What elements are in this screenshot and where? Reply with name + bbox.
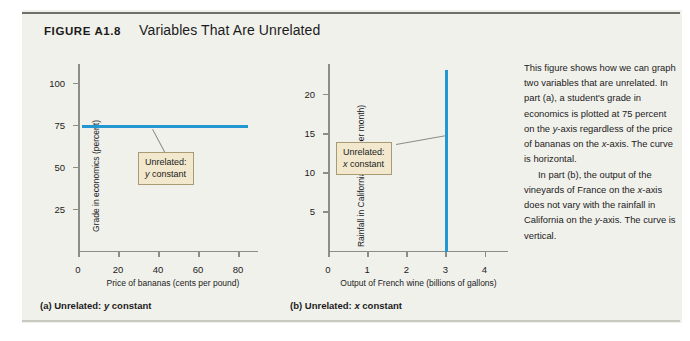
chart-a-xtick-label-40: 40 <box>153 264 164 275</box>
figure-header: FIGURE A1.8 Variables That Are Unrelated <box>44 22 320 38</box>
chart-b-ytick-10: 10 <box>323 172 328 174</box>
explanation-p2-a: In part (b), the output of the vineyards… <box>524 169 652 195</box>
chart-a-x-axis <box>78 251 258 253</box>
chart-b-ytick-label-15: 15 <box>304 128 315 139</box>
chart-a-annotation-line2: y constant <box>145 168 187 180</box>
chart-b-xtick-3: 3 <box>445 252 447 257</box>
chart-b-ytick-20: 20 <box>323 94 328 96</box>
chart-b-ytick-5: 5 <box>323 211 328 213</box>
panel-caption-a-suffix: constant <box>109 300 151 311</box>
chart-b-ytick-label-20: 20 <box>304 88 315 99</box>
chart-a-ytick-50: 50 <box>73 167 78 169</box>
chart-a-callout-leader <box>152 129 165 152</box>
chart-b-annotation-rest: constant <box>348 159 385 169</box>
chart-b-xtick-0: 0 <box>328 252 330 257</box>
chart-b-xtick-label-0: 0 <box>325 264 330 275</box>
chart-b-xtick-label-2: 2 <box>404 264 409 275</box>
chart-a-curve-horizontal <box>82 125 248 128</box>
chart-a-xtick-0: 0 <box>78 252 80 257</box>
chart-a-ytick-75: 75 <box>73 125 78 127</box>
chart-a-annotation-rest: constant <box>150 169 187 179</box>
panel-caption-a: (a) Unrelated: y constant <box>40 300 151 311</box>
chart-a-xtick-40: 40 <box>158 252 160 257</box>
chart-b-y-axis <box>328 64 330 252</box>
chart-b-curve-vertical <box>445 70 448 252</box>
chart-a-ytick-label-100: 100 <box>49 77 65 88</box>
chart-b-callout-leader <box>396 135 445 145</box>
chart-a-xtick-80: 80 <box>238 252 240 257</box>
explanation-paragraph-2: In part (b), the output of the vineyards… <box>524 167 676 243</box>
explanation-paragraph-1: This figure shows how we can graph two v… <box>524 60 676 167</box>
chart-b-xtick-label-3: 3 <box>443 264 448 275</box>
chart-a-plot-area: 100 75 50 25 0 20 40 60 80 <box>78 64 258 252</box>
chart-a-xtick-label-0: 0 <box>75 264 80 275</box>
chart-a-xtick-label-80: 80 <box>233 264 244 275</box>
panel-caption-a-prefix: (a) Unrelated: <box>40 300 104 311</box>
panel-top-rule <box>22 12 680 14</box>
figure-title: Variables That Are Unrelated <box>139 22 320 38</box>
panel-caption-b: (b) Unrelated: x constant <box>290 300 402 311</box>
chart-b-x-axis <box>328 251 508 253</box>
chart-b-annotation-line2: x constant <box>343 158 385 170</box>
chart-a-xtick-20: 20 <box>118 252 120 257</box>
chart-unrelated-x-constant: Rainfall in California (days per month) … <box>288 56 518 296</box>
figure-explanation-text: This figure shows how we can graph two v… <box>524 60 676 243</box>
chart-a-ytick-label-50: 50 <box>54 161 65 172</box>
chart-a-xtick-label-20: 20 <box>113 264 124 275</box>
figure-number: FIGURE A1.8 <box>44 25 121 37</box>
chart-a-annotation-line1: Unrelated: <box>145 156 187 168</box>
chart-unrelated-y-constant: Grade in economics (percent) Price of ba… <box>38 56 268 296</box>
chart-a-ytick-25: 25 <box>73 209 78 211</box>
chart-b-ytick-label-5: 5 <box>310 206 315 217</box>
chart-a-ytick-label-25: 25 <box>54 203 65 214</box>
chart-a-xtick-60: 60 <box>198 252 200 257</box>
chart-b-xtick-1: 1 <box>367 252 369 257</box>
chart-b-x-axis-title: Output of French wine (billions of gallo… <box>316 278 521 288</box>
chart-b-xtick-2: 2 <box>406 252 408 257</box>
chart-b-ytick-15: 15 <box>323 133 328 135</box>
chart-a-xtick-label-60: 60 <box>193 264 204 275</box>
chart-b-ytick-label-10: 10 <box>304 167 315 178</box>
chart-b-xtick-4: 4 <box>485 252 487 257</box>
panel-caption-b-suffix: constant <box>360 300 402 311</box>
chart-b-annotation-callout: Unrelated: x constant <box>336 142 392 175</box>
chart-b-xtick-label-1: 1 <box>364 264 369 275</box>
chart-b-xtick-label-4: 4 <box>482 264 487 275</box>
chart-a-x-axis-title: Price of bananas (cents per pound) <box>78 278 268 288</box>
chart-b-plot-area: 20 15 10 5 0 1 2 3 4 Unrela <box>328 64 508 252</box>
chart-a-y-axis <box>78 64 80 252</box>
panel-bottom-rule <box>22 320 680 322</box>
panel-caption-b-prefix: (b) Unrelated: <box>290 300 354 311</box>
chart-a-ytick-label-75: 75 <box>54 119 65 130</box>
chart-a-annotation-callout: Unrelated: y constant <box>138 152 194 185</box>
chart-a-ytick-100: 100 <box>73 83 78 85</box>
chart-b-annotation-line1: Unrelated: <box>343 146 385 158</box>
